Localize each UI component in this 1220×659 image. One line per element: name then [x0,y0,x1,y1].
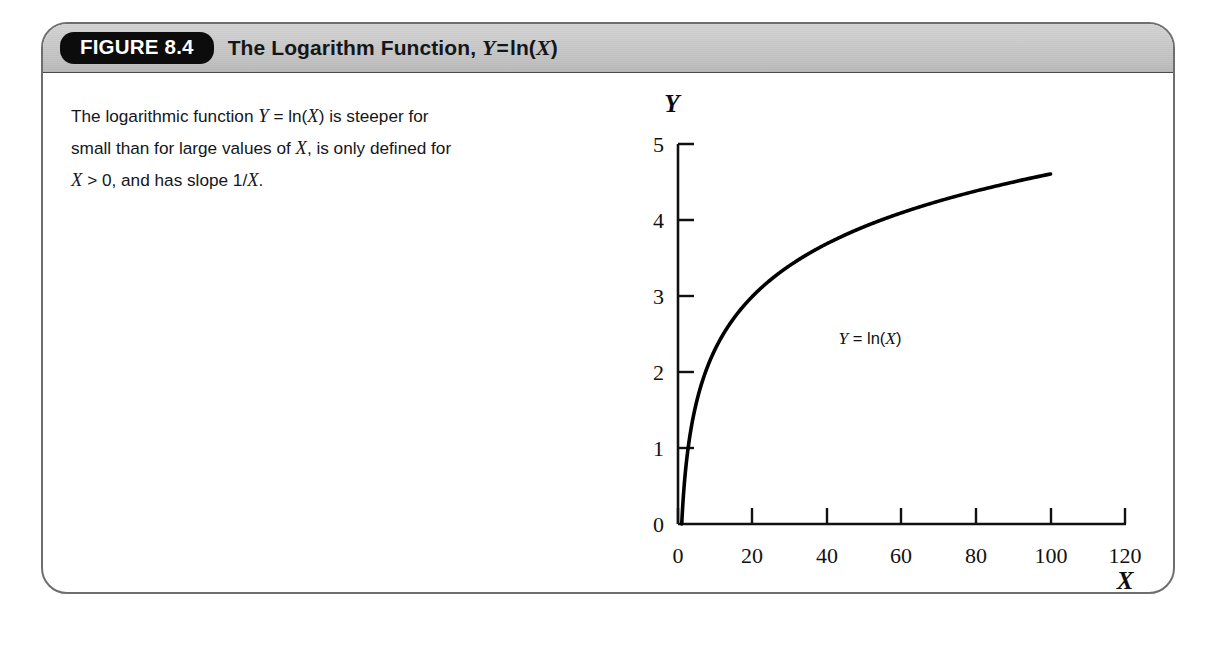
caption-line-3: X > 0, and has slope 1/X. [71,164,501,196]
figure-panel: FIGURE 8.4 The Logarithm Function, Y=ln(… [41,22,1175,594]
caption-line2-var-x: X [296,137,307,158]
y-tick-label-2: 2 [653,360,664,385]
y-tick-label-4: 4 [653,208,664,233]
figure-title-prefix: The Logarithm Function, [228,36,476,59]
logarithm-chart: 5 4 3 2 1 0 0 20 40 6 [568,76,1168,591]
figure-header-band: FIGURE 8.4 The Logarithm Function, Y=ln(… [43,24,1173,73]
x-tick-label-80: 80 [965,543,987,568]
x-tick-label-100: 100 [1035,543,1068,568]
caption-line2-text-b: , is only defined for [307,138,451,158]
y-tick-label-3: 3 [653,284,664,309]
caption-line1-text-b: ) is steeper for [319,106,429,126]
figure-title-func: ln( [510,36,536,59]
caption-line3-var-x: X [71,169,82,190]
x-tick-label-60: 60 [890,543,912,568]
figure-title-close: ) [551,36,558,59]
x-axis-label: X [1116,567,1135,591]
y-tick-label-1: 1 [653,436,664,461]
caption-line1-text-a: The logarithmic function [71,106,253,126]
caption-line3-text-b: . [259,170,264,190]
x-tick-label-120: 120 [1109,543,1142,568]
curve-equation-annotation: Y = ln(X) [838,328,901,348]
x-axis-ticks [678,508,1125,524]
ln-curve [682,174,1051,524]
y-tick-label-0: 0 [653,512,664,537]
figure-title-var-y: Y [482,35,496,60]
caption-line1-var-x: X [307,105,318,126]
caption-line-2: small than for large values of X, is onl… [71,132,501,164]
caption-line-1: The logarithmic function Y = ln(X) is st… [71,100,501,132]
x-tick-label-20: 20 [741,543,763,568]
caption-line2-text-a: small than for large values of [71,138,291,158]
y-axis-ticks [678,144,694,448]
figure-title-equals: = [496,36,510,59]
y-axis-tick-labels: 5 4 3 2 1 0 [653,132,664,537]
y-tick-label-5: 5 [653,132,664,157]
chart-svg: 5 4 3 2 1 0 0 20 40 6 [568,76,1168,591]
figure-caption: The logarithmic function Y = ln(X) is st… [71,100,501,196]
caption-line1-ln: ln( [288,106,307,126]
x-tick-label-0: 0 [673,543,684,568]
caption-line3-var-x2: X [247,169,258,190]
caption-line3-text-a: > 0, and has slope 1/ [87,170,247,190]
figure-number-badge: FIGURE 8.4 [60,32,214,64]
caption-line1-equals: = [273,106,283,126]
caption-line1-var-y: Y [258,105,268,126]
y-axis-label: Y [664,90,682,117]
figure-title-var-x: X [536,35,551,60]
x-axis-tick-labels: 0 20 40 60 80 100 120 [673,543,1142,568]
figure-title: The Logarithm Function, Y=ln(X) [228,35,558,61]
x-tick-label-40: 40 [816,543,838,568]
